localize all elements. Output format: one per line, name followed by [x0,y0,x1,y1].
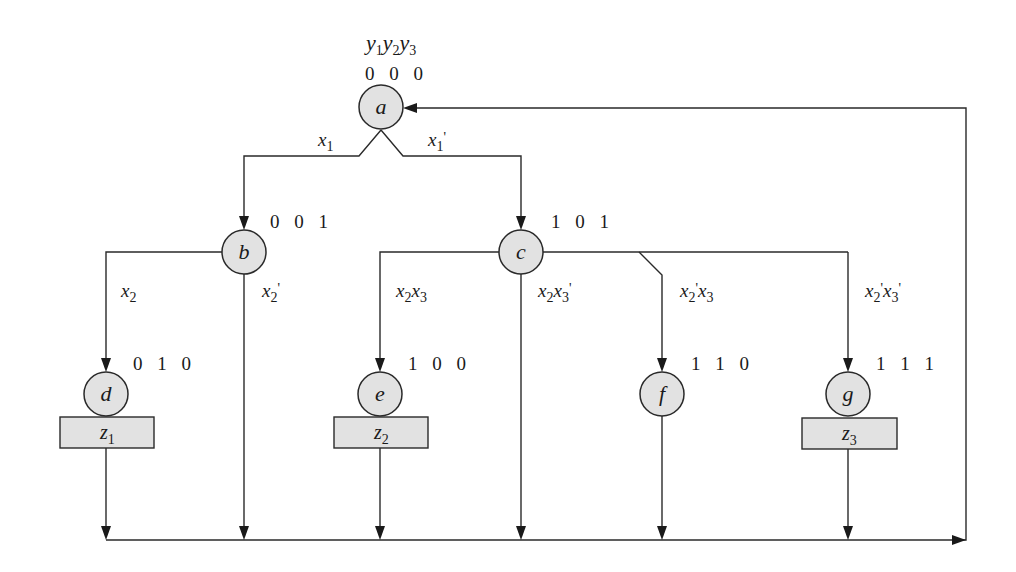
arrow-down-icon [375,358,385,372]
state-b-code: 0 0 1 [270,211,333,232]
state-f-code: 1 1 0 [691,353,754,374]
state-b: b 0 0 1 [222,211,333,274]
state-g-label: g [843,381,854,406]
cond-a-b: x1 [317,129,333,154]
state-d: d 0 1 0 z1 [60,353,196,448]
wire-a-to-c [381,130,521,224]
state-e: e 1 0 0 z2 [334,353,471,448]
arrow-down-icon [657,526,667,540]
cond-c-a: x2x3' [537,280,571,305]
arrow-down-icon [101,358,111,372]
arrow-down-icon [516,216,526,230]
arrow-down-icon [239,526,249,540]
asm-chart: y1y2y3 a 0 0 0 b 0 0 1 c 1 0 1 d 0 1 0 z… [0,0,1016,572]
state-b-label: b [239,239,250,264]
state-a-code: 0 0 0 [365,63,428,84]
cond-c-e: x2x3 [395,280,427,305]
state-a-label: a [376,94,387,119]
arrow-down-icon [101,526,111,540]
state-vars-header: y1y2y3 [364,30,416,58]
arrow-down-icon [375,526,385,540]
wire-c-to-e [380,252,499,366]
state-d-label: d [101,381,113,406]
state-c-code: 1 0 1 [551,211,614,232]
state-d-code: 0 1 0 [133,353,196,374]
arrow-left-icon [403,103,417,113]
state-e-code: 1 0 0 [408,353,471,374]
cond-c-f: x2'x3 [679,280,713,305]
state-c-label: c [516,239,526,264]
state-c: c 1 0 1 [499,211,614,274]
cond-b-d: x2 [120,280,136,305]
arrow-down-icon [516,526,526,540]
state-f: f 1 1 0 [640,353,754,416]
cond-b-a: x2' [261,280,280,305]
arrow-down-icon [657,358,667,372]
wire-b-to-d [106,252,222,366]
cond-c-g: x2'x3' [864,280,901,305]
arrow-down-icon [843,526,853,540]
arrowheads [101,103,966,545]
state-g-code: 1 1 1 [876,353,939,374]
state-a: a 0 0 0 [359,63,428,129]
wire-a-to-b [244,130,381,224]
wire-c-to-f [639,252,662,366]
cond-a-c: x1' [427,129,446,154]
state-e-label: e [375,381,385,406]
arrow-down-icon [843,358,853,372]
state-g: g 1 1 1 z3 [802,353,939,449]
arrow-down-icon [239,216,249,230]
wires [106,108,966,540]
return-line [412,108,966,540]
arrow-right-icon [952,535,966,545]
